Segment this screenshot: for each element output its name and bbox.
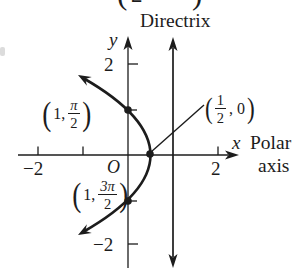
fraction-numerator: 3π — [98, 178, 117, 195]
y-axis-label: y — [109, 30, 117, 49]
open-paren: ( — [205, 95, 213, 123]
vertex-pointer-line — [151, 105, 204, 152]
fraction-denominator: 2 — [70, 114, 77, 131]
point-angle-value: , 0 — [229, 100, 245, 118]
close-paren: ) — [82, 98, 91, 130]
point-r-value: 1, — [53, 105, 65, 123]
close-paren: ) — [119, 179, 128, 211]
point-half-0-dot — [146, 150, 154, 158]
close-paren: ) — [247, 95, 255, 123]
point-1-pi-over-2-label: ( 1, π 2 ) — [41, 97, 92, 131]
y-tick-2-label: 2 — [104, 55, 114, 74]
point-r-value: 1, — [83, 186, 95, 204]
point-r-fraction: 1 2 — [215, 92, 226, 126]
open-paren: ( — [42, 98, 51, 130]
open-paren: ( — [72, 179, 81, 211]
fraction-numerator: 1 — [215, 92, 226, 109]
x-axis-name-line2: axis — [258, 156, 289, 176]
fraction-denominator: 2 — [217, 109, 224, 126]
point-1-pi-over-2-dot — [124, 106, 132, 114]
point-angle-fraction: π 2 — [68, 97, 79, 131]
curve-arrow-top-icon — [78, 75, 92, 86]
point-1-3pi-over-2-label: ( 1, 3π 2 ) — [71, 178, 129, 212]
top-partial-close-paren: ) — [192, 0, 202, 9]
fraction-denominator: 2 — [104, 195, 111, 212]
y-tick-neg2-label: −2 — [93, 235, 113, 254]
x-tick-2-label: 2 — [211, 159, 221, 178]
directrix-label: Directrix — [140, 11, 210, 31]
figure: ( 2 ) Directrix y 2 −2 −2 2 O x Polar ax… — [0, 0, 305, 270]
point-half-0-label: ( 1 2 , 0 ) — [204, 92, 256, 126]
fraction-numerator: π — [68, 97, 79, 114]
origin-label: O — [107, 158, 120, 176]
point-angle-fraction: 3π 2 — [98, 178, 117, 212]
x-axis-name-line1: Polar — [250, 133, 291, 153]
x-tick-neg2-label: −2 — [23, 159, 43, 178]
top-partial-value: 2 — [131, 0, 143, 6]
top-partial-open-paren: ( — [117, 0, 127, 9]
x-axis-label: x — [232, 133, 240, 152]
curve-arrow-bottom-icon — [78, 224, 92, 235]
